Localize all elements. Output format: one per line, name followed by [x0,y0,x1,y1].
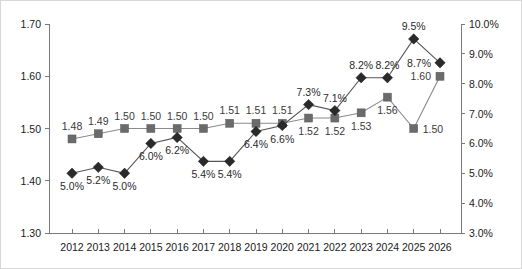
data-label: 6.0% [139,150,163,162]
x-axis-tick-label: 2019 [244,241,268,253]
x-axis-tick-label: 2012 [60,241,84,253]
data-point-marker [226,119,234,127]
left-axis-tick-label: 1.50 [21,123,42,135]
x-axis-tick-label: 2016 [165,241,189,253]
x-axis-tick-label: 2023 [349,241,373,253]
data-label: 1.51 [219,104,240,116]
data-label: 1.60 [411,70,432,82]
data-label: 1.50 [167,110,188,122]
data-label: 5.4% [218,168,242,180]
data-label: 7.1% [323,92,347,104]
data-label: 1.52 [325,125,346,137]
data-label: 5.2% [86,174,110,186]
data-point-marker [68,135,76,143]
data-point-marker [94,130,102,138]
data-label: 1.52 [298,125,319,137]
line-chart: 1.301.401.501.601.703.0%4.0%5.0%6.0%7.0%… [1,1,522,269]
data-label: 6.2% [165,144,189,156]
right-axis-tick-label: 6.0% [469,137,493,149]
x-axis-tick-label: 2024 [376,241,400,253]
data-label: 1.49 [88,115,109,127]
x-axis-tick-label: 2022 [323,241,347,253]
data-label: 8.2% [375,59,399,71]
data-label: 8.2% [349,59,373,71]
data-label: 1.50 [193,110,214,122]
data-label: 1.50 [423,123,444,135]
data-point-marker [305,114,313,122]
data-point-marker [303,99,313,109]
data-point-marker [356,73,366,83]
x-axis-tick-label: 2013 [87,241,111,253]
chart-container: 1.301.401.501.601.703.0%4.0%5.0%6.0%7.0%… [0,0,522,269]
data-point-marker [147,125,155,133]
right-axis-tick-label: 5.0% [469,167,493,179]
left-axis-tick-label: 1.40 [21,175,42,187]
x-axis-tick-label: 2021 [297,241,321,253]
data-label: 1.56 [377,104,398,116]
data-point-marker [382,73,392,83]
data-point-marker [199,125,207,133]
data-label: 9.5% [402,20,426,32]
axes-group: 1.301.401.501.601.703.0%4.0%5.0%6.0%7.0%… [21,18,499,253]
x-axis-tick-label: 2018 [218,241,242,253]
left-axis-tick-label: 1.70 [21,18,42,30]
x-axis-tick-label: 2026 [428,241,452,253]
data-label: 8.7% [407,57,431,69]
x-axis-tick-label: 2020 [271,241,295,253]
x-axis-tick-label: 2017 [192,241,216,253]
left-axis-tick-label: 1.30 [21,227,42,239]
data-labels-group: 1.481.491.501.501.501.501.511.511.511.52… [60,20,443,192]
data-point-marker [173,125,181,133]
data-label: 1.50 [141,110,162,122]
data-label: 6.4% [244,138,268,150]
right-axis-tick-label: 7.0% [469,108,493,120]
right-axis-tick-label: 4.0% [469,197,493,209]
x-axis-tick-label: 2015 [139,241,163,253]
data-label: 1.48 [62,120,83,132]
data-label: 1.51 [272,104,293,116]
data-label: 1.53 [351,120,372,132]
right-axis-tick-label: 8.0% [469,78,493,90]
data-point-marker [93,162,103,172]
x-axis-tick-label: 2014 [113,241,137,253]
data-label: 5.4% [191,168,215,180]
data-point-marker [436,72,444,80]
right-axis-tick-label: 10.0% [469,18,499,30]
data-point-marker [383,93,391,101]
data-point-marker [67,168,77,178]
data-point-marker [410,125,418,133]
data-label: 1.50 [114,110,135,122]
data-label: 1.51 [246,104,267,116]
right-axis-tick-label: 3.0% [469,227,493,239]
data-label: 5.0% [113,180,137,192]
data-label: 5.0% [60,180,84,192]
right-axis-tick-label: 9.0% [469,48,493,60]
data-point-marker [357,109,365,117]
data-label: 7.3% [297,86,321,98]
data-label: 6.6% [270,133,294,145]
x-axis-tick-label: 2025 [402,241,426,253]
data-point-marker [121,125,129,133]
left-axis-tick-label: 1.60 [21,70,42,82]
